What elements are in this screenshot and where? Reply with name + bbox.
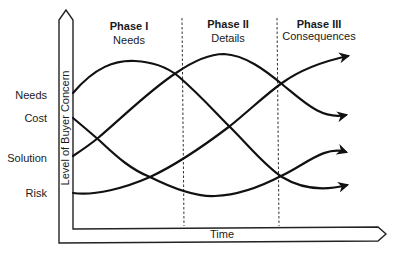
level-label-risk: Risk: [26, 187, 48, 199]
axes-frame: [59, 10, 386, 243]
phase-2-title: Phase II: [207, 18, 249, 30]
phase-2-subtitle: Details: [211, 32, 245, 44]
phase-1-subtitle: Needs: [113, 34, 145, 46]
y-axis-label: Level of Buyer Concern: [59, 71, 71, 186]
curve-cost: [73, 118, 346, 196]
phase-3-subtitle: Consequences: [282, 30, 356, 42]
buyer-concern-diagram: Level of Buyer Concern Time Phase I Need…: [0, 0, 397, 255]
phase-3-title: Phase III: [297, 18, 342, 30]
phase-divider-1: [182, 18, 184, 226]
level-label-cost: Cost: [24, 112, 47, 124]
level-label-solution: Solution: [7, 152, 47, 164]
x-axis-label: Time: [210, 228, 234, 240]
phase-1-title: Phase I: [110, 20, 149, 32]
phase-divider-2: [277, 18, 279, 226]
level-label-needs: Needs: [15, 89, 47, 101]
